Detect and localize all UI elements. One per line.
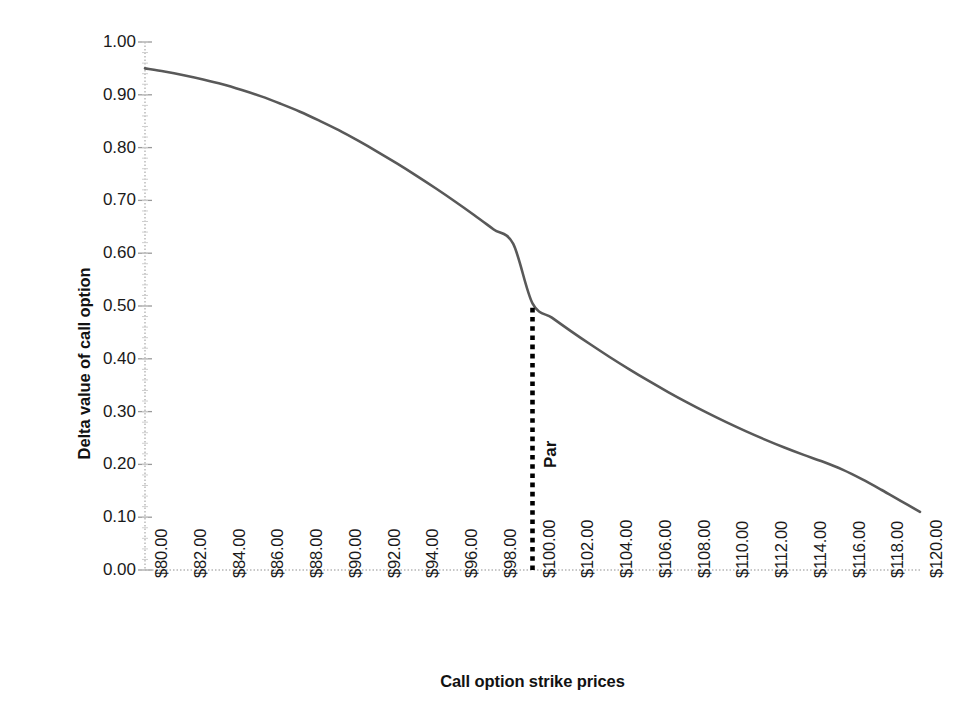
delta-vs-strike-chart: Delta value of call option 1.000.900.800… [0,0,967,727]
x-axis-title: Call option strike prices [145,672,920,691]
y-axis [138,42,152,570]
par-annotation-label: Par [541,441,561,468]
delta-curve [145,68,920,512]
plot-area [0,0,967,727]
